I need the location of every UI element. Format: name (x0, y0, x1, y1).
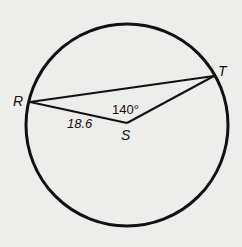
point-t-label: T (218, 64, 227, 78)
chord-rt (30, 76, 214, 102)
circle (26, 24, 228, 226)
point-r-label: R (13, 94, 23, 108)
point-s-label: S (121, 128, 130, 142)
segment-length-label: 18.6 (67, 117, 92, 130)
angle-label: 140° (112, 103, 139, 116)
circle-diagram (0, 0, 242, 247)
